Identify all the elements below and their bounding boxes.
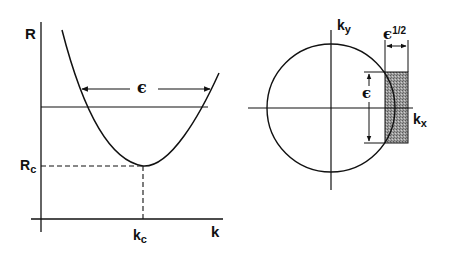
rc-label: Rc bbox=[20, 158, 36, 172]
epsilon-half-exponent: 1/2 bbox=[392, 25, 406, 36]
kc-label: kc bbox=[133, 228, 147, 242]
neutral-stability-curve bbox=[62, 30, 219, 166]
kx-label-sub: x bbox=[421, 117, 427, 129]
rc-label-main: R bbox=[20, 157, 30, 173]
k-axis-label: k bbox=[211, 224, 219, 239]
right-panel-wavevector-plane bbox=[248, 30, 413, 190]
ky-label: ky bbox=[337, 18, 351, 32]
left-panel-neutral-curve bbox=[31, 22, 223, 232]
figure-graphics bbox=[0, 0, 449, 254]
epsilon-half-width-label: ϵ1/2 bbox=[383, 26, 406, 42]
epsilon-band-label: ϵ bbox=[137, 80, 147, 96]
kc-label-main: k bbox=[133, 227, 141, 243]
ky-label-sub: y bbox=[345, 23, 351, 35]
rc-label-sub: c bbox=[30, 163, 36, 175]
kx-label: kx bbox=[413, 112, 427, 126]
neutral-stability-figure: R k ϵ Rc kc ky kx ϵ ϵ1/2 bbox=[0, 0, 449, 254]
ky-label-main: k bbox=[337, 17, 345, 33]
r-axis-label: R bbox=[25, 26, 36, 41]
epsilon-half-main: ϵ bbox=[383, 25, 392, 43]
kc-label-sub: c bbox=[141, 233, 147, 245]
kx-label-main: k bbox=[413, 111, 421, 127]
epsilon-height-label: ϵ bbox=[362, 86, 371, 101]
